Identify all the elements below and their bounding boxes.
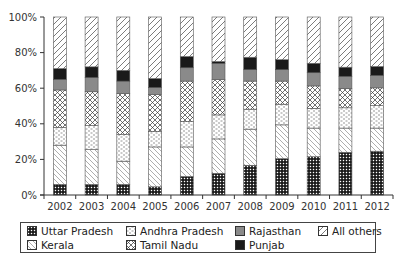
legend: Uttar Pradesh Kerala Andhra Pradesh Tami… — [20, 222, 376, 253]
y-tick-label: 20% — [15, 154, 37, 165]
bar-segment — [244, 57, 257, 69]
bar-segment — [339, 17, 352, 67]
bar-segment — [212, 115, 225, 139]
legend-item-all-others: All others — [318, 225, 382, 237]
gray-swatch-icon — [235, 226, 245, 236]
bar-segment — [85, 78, 98, 92]
bar-segment — [275, 17, 288, 60]
crosshatch-pattern-swatch-icon — [126, 240, 136, 250]
bar-segment — [275, 125, 288, 159]
bar-segment — [149, 87, 162, 94]
y-axis: 0%20%40%60%80%100% — [8, 12, 44, 201]
y-tick-label: 80% — [15, 47, 37, 58]
x-tick-label: 2007 — [206, 201, 231, 212]
bar-segment — [180, 57, 193, 68]
bar-segment — [307, 157, 320, 195]
x-tick-label: 2005 — [142, 201, 167, 212]
bar-segment — [149, 17, 162, 79]
stacked-bar-chart: 0%20%40%60%80%100% 200220032004200520062… — [0, 0, 405, 220]
legend-item-andhra-pradesh: Andhra Pradesh — [126, 225, 223, 237]
x-axis: 2002200320042005200620072008200920102011… — [40, 195, 393, 212]
bar-segment — [307, 86, 320, 108]
bar-segment — [53, 145, 66, 184]
bar-segment — [117, 134, 130, 161]
bar-segment — [244, 70, 257, 81]
bars-group — [53, 17, 383, 195]
bar-segment — [275, 60, 288, 70]
bar-segment — [339, 108, 352, 128]
bar-segment — [339, 152, 352, 195]
bar-segment — [53, 69, 66, 80]
bar-segment — [339, 67, 352, 76]
bar-segment — [371, 75, 384, 87]
bar-segment — [275, 70, 288, 81]
legend-label: Rajasthan — [249, 225, 301, 237]
legend-label: Punjab — [249, 239, 284, 251]
bar-segment — [53, 17, 66, 69]
bar-segment — [85, 92, 98, 126]
y-tick-label: 40% — [15, 118, 37, 129]
bar-segment — [149, 131, 162, 146]
bar-2006 — [180, 17, 193, 195]
bar-segment — [180, 17, 193, 57]
slash-pattern-swatch-icon — [318, 226, 328, 236]
x-tick-label: 2008 — [238, 201, 263, 212]
x-tick-label: 2006 — [174, 201, 199, 212]
legend-label: Tamil Nadu — [140, 239, 198, 251]
bar-2004 — [117, 17, 130, 195]
bar-segment — [307, 73, 320, 86]
bar-segment — [53, 127, 66, 145]
x-tick-label: 2004 — [111, 201, 136, 212]
bar-segment — [244, 81, 257, 109]
legend-item-kerala: Kerala — [27, 239, 74, 251]
bar-segment — [339, 128, 352, 152]
bar-segment — [371, 66, 384, 75]
bar-segment — [212, 17, 225, 62]
legend-item-rajasthan: Rajasthan — [235, 225, 301, 237]
black-swatch-icon — [235, 240, 245, 250]
bar-2005 — [149, 17, 162, 195]
bar-segment — [149, 187, 162, 195]
bar-segment — [85, 150, 98, 185]
bar-2010 — [307, 17, 320, 195]
bar-2003 — [85, 17, 98, 195]
dash-pattern-swatch-icon — [126, 226, 136, 236]
legend-item-tamil-nadu: Tamil Nadu — [126, 239, 198, 251]
legend-label: All others — [332, 225, 382, 237]
x-tick-label: 2011 — [333, 201, 358, 212]
bar-segment — [149, 79, 162, 88]
bar-segment — [212, 173, 225, 195]
bar-segment — [212, 63, 225, 79]
bar-segment — [53, 90, 66, 127]
x-tick-label: 2010 — [301, 201, 326, 212]
legend-item-punjab: Punjab — [235, 239, 284, 251]
bar-segment — [371, 106, 384, 128]
bar-segment — [149, 94, 162, 131]
bar-2012 — [371, 17, 384, 195]
bar-2007 — [212, 17, 225, 195]
bar-segment — [307, 108, 320, 128]
bar-segment — [85, 17, 98, 67]
bar-segment — [371, 17, 384, 66]
bar-segment — [275, 81, 288, 104]
x-tick-label: 2002 — [47, 201, 72, 212]
bar-2011 — [339, 17, 352, 195]
bar-segment — [180, 176, 193, 195]
y-tick-label: 0% — [21, 190, 37, 201]
bar-segment — [244, 109, 257, 129]
bar-segment — [85, 126, 98, 150]
x-tick-label: 2003 — [79, 201, 104, 212]
bar-segment — [339, 76, 352, 88]
bar-segment — [117, 94, 130, 135]
x-tick-label: 2012 — [364, 201, 389, 212]
bar-segment — [212, 80, 225, 115]
bar-2008 — [244, 17, 257, 195]
legend-label: Andhra Pradesh — [140, 225, 223, 237]
y-tick-label: 60% — [15, 83, 37, 94]
y-tick-label: 100% — [8, 12, 37, 23]
legend-label: Uttar Pradesh — [41, 225, 113, 237]
bar-segment — [117, 70, 130, 81]
bar-segment — [371, 88, 384, 106]
bar-segment — [307, 128, 320, 157]
bar-segment — [371, 128, 384, 151]
